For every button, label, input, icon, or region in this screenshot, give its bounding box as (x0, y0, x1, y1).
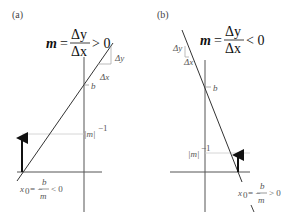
root-relation: > 0 (269, 188, 281, 198)
intercept-label: b (213, 83, 218, 93)
formula-m: m (46, 36, 57, 51)
root-denominator: m (40, 191, 47, 201)
inverse-slope-exponent: −1 (201, 143, 211, 153)
formula-m: m (200, 33, 211, 48)
panel-a: (a) m = Δy Δx > 0 Δy Δx b |m| −1 (12, 9, 124, 212)
formula-relation: < 0 (246, 33, 264, 48)
formula-eq: = (214, 33, 222, 48)
root-denominator: m (258, 195, 265, 205)
delta-x-label: Δx (99, 72, 109, 82)
formula-numerator: Δy (71, 27, 87, 42)
panel-b: (b) m = Δy Δx < 0 Δy Δx b |m| −1 (157, 9, 281, 212)
stray-mark (251, 205, 254, 212)
panel-a-formula: m = Δy Δx > 0 (46, 27, 110, 59)
panel-b-formula: m = Δy Δx < 0 (200, 24, 264, 56)
panel-a-label: (a) (12, 9, 23, 21)
panel-a-root-label: x 0 = − b m < 0 (19, 177, 63, 201)
delta-y-label: Δy (114, 53, 124, 63)
panel-b-label: (b) (157, 9, 169, 21)
diagram: (a) m = Δy Δx > 0 Δy Δx b |m| −1 (0, 0, 291, 223)
root-numerator: b (260, 181, 265, 191)
inverse-slope-exponent: −1 (98, 123, 108, 133)
formula-numerator: Δy (225, 24, 241, 39)
root-var: x (237, 188, 242, 198)
panel-b-root-label: x 0 = − b m > 0 (237, 181, 281, 205)
root-numerator: b (42, 177, 47, 187)
formula-denominator: Δx (71, 44, 87, 59)
delta-y-label: Δy (172, 43, 182, 53)
formula-eq: = (60, 36, 68, 51)
inverse-slope-label: |m| (188, 149, 199, 159)
inverse-slope-label: |m| (84, 129, 95, 139)
root-relation: < 0 (51, 184, 63, 194)
formula-relation: > 0 (92, 36, 110, 51)
intercept-label: b (91, 81, 96, 91)
delta-x-label: Δx (183, 57, 193, 67)
root-var: x (19, 184, 24, 194)
formula-denominator: Δx (225, 41, 241, 56)
